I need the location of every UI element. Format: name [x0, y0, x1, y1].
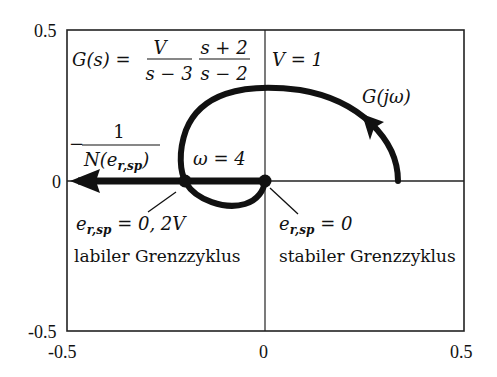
unstable-limit-cycle-point [179, 175, 192, 188]
formula-lhs: G(s) = [72, 49, 130, 70]
omega-label: ω = 4 [193, 148, 246, 169]
frac1-numerator: V [154, 37, 169, 58]
df-minus: − [69, 133, 84, 154]
nyquist-diagram: 0.5 0 -0.5 -0.5 0 0.5 G(s) = V s − 3 s +… [0, 0, 497, 377]
stable-caption: stabiler Grenzzyklus [279, 246, 456, 266]
curve-label: G(jω) [362, 86, 411, 107]
stable-limit-cycle-point [259, 175, 272, 188]
x-tick-left: -0.5 [48, 342, 77, 362]
y-tick-top: 0.5 [34, 21, 57, 41]
unstable-leader-line [148, 192, 176, 212]
x-tick-zero: 0 [259, 342, 268, 362]
gain-label: V = 1 [272, 49, 323, 70]
unstable-amplitude-label: er,sp = 0, 2V [76, 213, 187, 237]
df-denominator: N(er,sp) [83, 149, 149, 173]
y-tick-zero: 0 [52, 172, 61, 192]
transfer-function-formula: G(s) = V s − 3 s + 2 s − 2 [72, 37, 250, 84]
df-numerator: 1 [113, 121, 124, 142]
frac2-denominator: s − 2 [200, 63, 247, 84]
frac2-numerator: s + 2 [200, 37, 247, 58]
unstable-caption: labiler Grenzzyklus [74, 246, 241, 266]
left-arrow-icon [70, 169, 100, 193]
y-tick-bottom: -0.5 [28, 322, 57, 342]
x-tick-right: 0.5 [450, 342, 473, 362]
describing-function-label: − 1 N(er,sp) [69, 121, 160, 173]
stable-amplitude-label: er,sp = 0 [279, 213, 352, 237]
frac1-denominator: s − 3 [145, 63, 192, 84]
stable-leader-line [270, 188, 298, 214]
